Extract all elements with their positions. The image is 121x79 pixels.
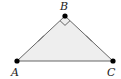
triangle-diagram: B A C bbox=[0, 0, 121, 79]
vertex-b bbox=[62, 13, 67, 18]
label-c: C bbox=[107, 66, 116, 79]
vertex-c bbox=[110, 58, 115, 63]
vertex-a bbox=[14, 58, 19, 63]
label-a: A bbox=[10, 66, 19, 79]
triangle-abc bbox=[17, 16, 113, 61]
label-b: B bbox=[59, 0, 68, 13]
